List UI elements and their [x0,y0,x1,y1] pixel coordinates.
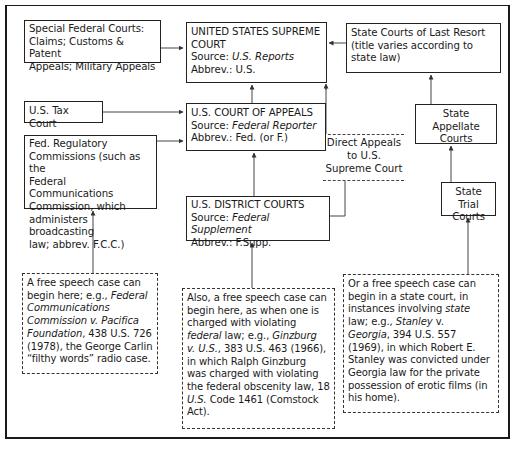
fed-regulatory-box: Fed. Regulatory Commissions (such as the… [24,135,157,209]
district-source: Source: Federal Supplement [191,212,325,237]
supreme-source: Source: U.S. Reports [191,51,322,64]
supreme-court-box: UNITED STATES SUPREME COURT Source: U.S.… [186,22,327,83]
direct-appeals-bottom-dash [323,180,404,181]
state-trial-box: State Trial Courts [441,182,496,216]
court-of-appeals-box: U.S. COURT OF APPEALS Source: Federal Re… [186,103,326,151]
note-federal-district-case: Also, a free speech case can begin here,… [182,288,335,429]
district-courts-box: U.S. DISTRICT COURTS Source: Federal Sup… [186,196,330,241]
appeals-source: Source: Federal Reporter [191,120,321,133]
special-federal-courts-box: Special Federal Courts: Claims; Customs … [24,20,161,63]
state-appellate-box: State Appellate Courts [415,104,497,144]
note-state-court-case: Or a free speech case can begin in a sta… [343,274,499,413]
note-federal-commission-case: A free speech case can begin here; e.g.,… [22,273,158,374]
state-last-resort-box: State Courts of Last Resort (title varie… [346,23,501,73]
direct-appeals-label: Direct Appeals to U.S. Supreme Court [322,137,406,175]
tax-court-box: U.S. Tax Court [24,101,103,123]
direct-appeals-top-dash [323,134,404,135]
